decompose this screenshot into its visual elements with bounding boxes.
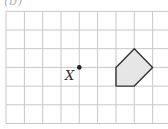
point-x-label: X xyxy=(64,68,75,83)
point-x-dot xyxy=(77,65,82,70)
grid-figure: X xyxy=(0,0,168,129)
pentagon-shape xyxy=(116,49,153,86)
